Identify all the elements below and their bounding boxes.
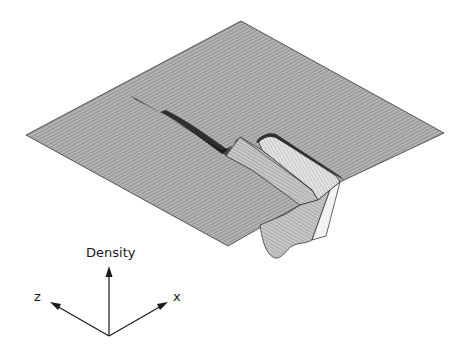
- surface-plane: [26, 21, 444, 246]
- x-axis-label: x: [173, 290, 181, 303]
- x-axis-arrow: [109, 305, 163, 336]
- density-axis-label: Density: [86, 246, 135, 259]
- axis-indicator: [50, 266, 168, 336]
- density-surface-figure: [0, 0, 466, 353]
- z-axis-arrow: [55, 305, 109, 336]
- z-axis-label: z: [34, 290, 41, 303]
